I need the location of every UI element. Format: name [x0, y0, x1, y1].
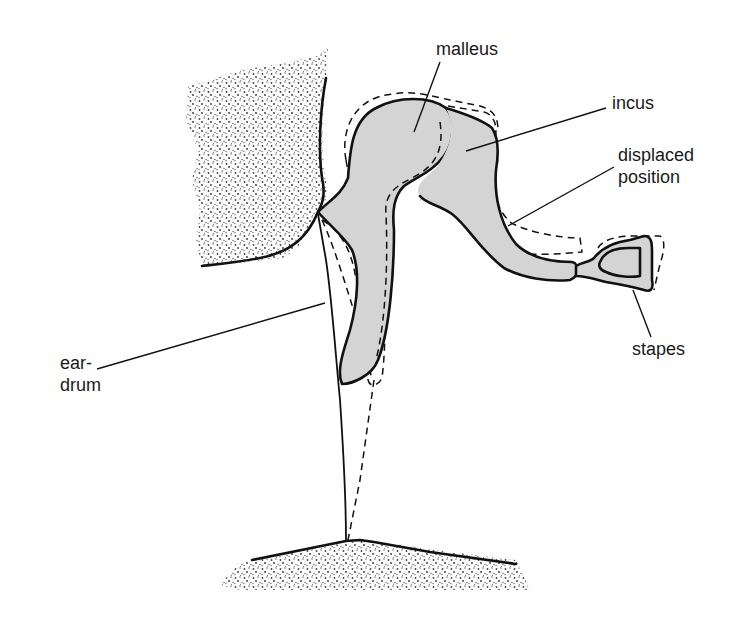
eardrum-leader	[97, 303, 325, 369]
label-incus: incus	[612, 92, 654, 114]
label-malleus: malleus	[436, 38, 498, 60]
label-eardrum: ear- drum	[60, 352, 101, 396]
displaced-leader	[508, 167, 614, 226]
stapes	[576, 236, 653, 291]
temporal-bone-lower	[220, 540, 530, 590]
label-stapes: stapes	[632, 338, 685, 360]
label-displaced-position: displaced position	[618, 144, 694, 188]
stapes-leader	[633, 290, 651, 337]
malleus	[318, 99, 453, 384]
temporal-bone-upper	[186, 48, 328, 266]
